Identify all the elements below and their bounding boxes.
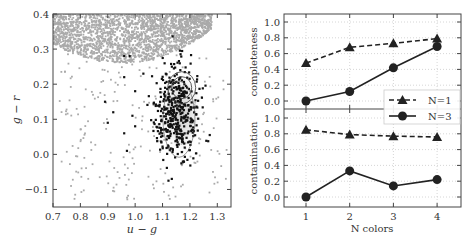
legend-label-n3: N=3 <box>428 111 452 122</box>
svg-text:0.7: 0.7 <box>45 211 61 222</box>
svg-text:1.0: 1.0 <box>264 113 280 124</box>
svg-text:4: 4 <box>434 211 440 222</box>
scatter-xlabel: u − g <box>127 223 157 236</box>
svg-text:1.0: 1.0 <box>264 17 280 28</box>
scatter-plot: 0.70.80.91.01.11.21.3−0.10.00.10.20.30.4… <box>10 6 231 236</box>
svg-text:0.1: 0.1 <box>33 114 49 125</box>
svg-text:0.0: 0.0 <box>33 149 49 160</box>
legend: N=1 N=3 <box>384 90 460 124</box>
svg-text:0.6: 0.6 <box>264 144 280 155</box>
contamination-ylabel: contamination <box>248 121 259 194</box>
circle-marker-icon <box>398 112 407 121</box>
svg-text:1.0: 1.0 <box>127 211 143 222</box>
svg-text:2: 2 <box>347 211 353 222</box>
metrics-xlabel: N colors <box>351 223 394 234</box>
svg-text:0.2: 0.2 <box>264 176 280 187</box>
svg-text:0.4: 0.4 <box>264 160 280 171</box>
svg-text:0.9: 0.9 <box>100 211 116 222</box>
svg-text:0.8: 0.8 <box>264 32 280 43</box>
completeness-ylabel: completeness <box>248 27 259 96</box>
figure: 0.70.80.91.01.11.21.3−0.10.00.10.20.30.4… <box>0 0 472 246</box>
svg-text:0.6: 0.6 <box>264 48 280 59</box>
metrics-plot: 0.00.20.40.60.81.00.00.20.40.60.81.01234… <box>248 14 461 234</box>
svg-text:0.2: 0.2 <box>264 80 280 91</box>
svg-text:0.4: 0.4 <box>264 64 280 75</box>
svg-text:1.3: 1.3 <box>209 211 225 222</box>
scatter-ylabel: g − r <box>10 95 23 124</box>
svg-text:1.1: 1.1 <box>155 211 171 222</box>
legend-label-n1: N=1 <box>428 95 452 106</box>
svg-text:0.2: 0.2 <box>33 79 49 90</box>
svg-text:0.0: 0.0 <box>264 192 280 203</box>
svg-text:0.0: 0.0 <box>264 96 280 107</box>
scatter-points <box>52 6 227 200</box>
svg-text:−0.1: −0.1 <box>25 184 49 195</box>
svg-text:1: 1 <box>303 211 309 222</box>
svg-text:1.2: 1.2 <box>182 211 198 222</box>
svg-text:3: 3 <box>390 211 396 222</box>
svg-text:0.3: 0.3 <box>33 44 49 55</box>
svg-text:0.8: 0.8 <box>72 211 88 222</box>
svg-text:0.4: 0.4 <box>33 9 49 20</box>
svg-text:0.8: 0.8 <box>264 128 280 139</box>
